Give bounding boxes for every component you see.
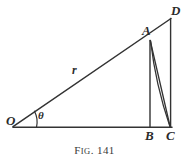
caption-prefix-smallcaps: IG bbox=[81, 146, 91, 156]
angle-arc-theta bbox=[35, 111, 38, 127]
angle-label-theta: θ bbox=[38, 110, 44, 121]
figure-drawing-canvas bbox=[0, 0, 189, 165]
segment-chord-AC bbox=[150, 41, 170, 128]
figure-caption: FIG. 141 bbox=[0, 144, 189, 156]
point-label-D: D bbox=[171, 4, 180, 17]
point-label-C: C bbox=[166, 129, 175, 142]
figure-141: O A B C D r θ FIG. 141 bbox=[0, 0, 189, 165]
length-label-r: r bbox=[72, 64, 77, 76]
point-label-O: O bbox=[6, 114, 15, 127]
caption-number: 141 bbox=[97, 144, 115, 156]
point-label-A: A bbox=[142, 24, 151, 37]
point-label-B: B bbox=[145, 129, 154, 142]
